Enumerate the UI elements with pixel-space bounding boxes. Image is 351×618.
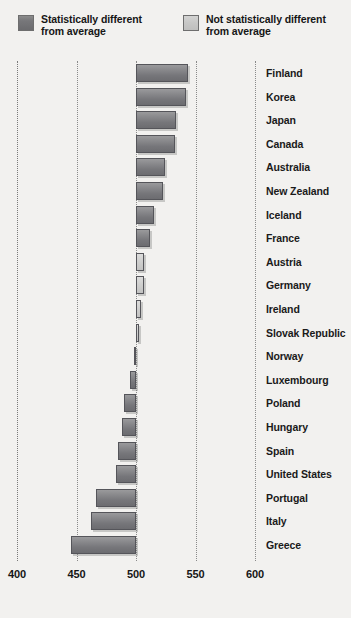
- x-tick-450: 450: [68, 568, 86, 580]
- chart-row: New Zealand: [0, 179, 351, 203]
- chart-row: Slovak Republic: [0, 321, 351, 345]
- country-label-australia: Australia: [266, 158, 310, 176]
- x-tick-500: 500: [127, 568, 145, 580]
- bar-slovak-republic[interactable]: [136, 324, 139, 342]
- bar-canada[interactable]: [136, 135, 175, 153]
- legend-label-statistically-different: Statistically different from average: [41, 14, 142, 37]
- country-label-norway: Norway: [266, 347, 303, 365]
- bar-greece[interactable]: [71, 536, 136, 554]
- country-label-poland: Poland: [266, 394, 300, 412]
- country-label-ireland: Ireland: [266, 300, 300, 318]
- bar-norway[interactable]: [134, 347, 137, 365]
- chart-row: Poland: [0, 391, 351, 415]
- chart-bar-rows: FinlandKoreaJapanCanadaAustraliaNew Zeal…: [0, 58, 351, 563]
- bar-finland[interactable]: [136, 64, 188, 82]
- country-label-hungary: Hungary: [266, 418, 308, 436]
- country-label-austria: Austria: [266, 253, 301, 271]
- bar-ireland[interactable]: [136, 300, 141, 318]
- chart-row: Canada: [0, 132, 351, 156]
- country-label-slovak-republic: Slovak Republic: [266, 324, 346, 342]
- country-label-korea: Korea: [266, 88, 295, 106]
- country-label-greece: Greece: [266, 536, 301, 554]
- x-tick-400: 400: [8, 568, 26, 580]
- country-label-canada: Canada: [266, 135, 303, 153]
- bar-germany[interactable]: [136, 276, 144, 294]
- chart-row: Greece: [0, 533, 351, 557]
- bar-japan[interactable]: [136, 111, 176, 129]
- chart-plot-area: FinlandKoreaJapanCanadaAustraliaNew Zeal…: [0, 58, 351, 563]
- chart-row: United States: [0, 462, 351, 486]
- chart-row: Finland: [0, 61, 351, 85]
- chart-row: Australia: [0, 155, 351, 179]
- chart-row: Iceland: [0, 203, 351, 227]
- country-label-portugal: Portugal: [266, 489, 308, 507]
- chart-row: Ireland: [0, 297, 351, 321]
- chart-row: Hungary: [0, 415, 351, 439]
- bar-new-zealand[interactable]: [136, 182, 163, 200]
- country-label-france: France: [266, 229, 300, 247]
- country-label-germany: Germany: [266, 276, 311, 294]
- bar-luxembourg[interactable]: [130, 371, 136, 389]
- chart-row: Austria: [0, 250, 351, 274]
- chart-x-axis: 400450500550600: [0, 563, 351, 593]
- country-label-united-states: United States: [266, 465, 332, 483]
- legend-swatch-light-icon: [183, 15, 199, 31]
- bar-spain[interactable]: [118, 442, 136, 460]
- bar-italy[interactable]: [91, 512, 136, 530]
- bar-austria[interactable]: [136, 253, 144, 271]
- bar-portugal[interactable]: [96, 489, 136, 507]
- bar-hungary[interactable]: [122, 418, 136, 436]
- chart-row: Germany: [0, 273, 351, 297]
- x-tick-600: 600: [246, 568, 264, 580]
- legend-swatch-dark-icon: [18, 15, 34, 31]
- legend-item-statistically-different: Statistically different from average: [18, 14, 142, 37]
- country-label-luxembourg: Luxembourg: [266, 371, 329, 389]
- country-label-iceland: Iceland: [266, 206, 301, 224]
- chart-row: Japan: [0, 108, 351, 132]
- bar-united-states[interactable]: [116, 465, 136, 483]
- bar-france[interactable]: [136, 229, 150, 247]
- chart-row: Korea: [0, 85, 351, 109]
- chart-row: France: [0, 226, 351, 250]
- country-label-finland: Finland: [266, 64, 303, 82]
- bar-poland[interactable]: [124, 394, 136, 412]
- legend-label-not-statistically-different: Not statistically different from average: [206, 14, 326, 37]
- bar-korea[interactable]: [136, 88, 186, 106]
- legend-item-not-statistically-different: Not statistically different from average: [183, 14, 326, 37]
- country-label-spain: Spain: [266, 442, 294, 460]
- country-label-italy: Italy: [266, 512, 287, 530]
- country-label-japan: Japan: [266, 111, 296, 129]
- chart-legend: Statistically different from average Not…: [0, 0, 351, 58]
- chart-row: Portugal: [0, 486, 351, 510]
- bar-iceland[interactable]: [136, 206, 154, 224]
- chart-row: Norway: [0, 344, 351, 368]
- chart-row: Italy: [0, 509, 351, 533]
- chart-row: Spain: [0, 439, 351, 463]
- bar-australia[interactable]: [136, 158, 165, 176]
- x-tick-550: 550: [187, 568, 205, 580]
- country-label-new-zealand: New Zealand: [266, 182, 329, 200]
- chart-row: Luxembourg: [0, 368, 351, 392]
